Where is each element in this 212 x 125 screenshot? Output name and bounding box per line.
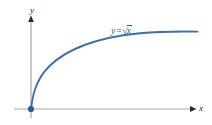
y-axis-label: y	[30, 6, 34, 15]
plot-canvas	[0, 0, 212, 125]
y-axis-arrowhead	[28, 16, 34, 23]
equation-equals: =	[115, 26, 122, 36]
curve-equation-label: y=√x	[111, 27, 132, 37]
x-axis-label: x	[199, 104, 203, 113]
x-axis-arrowhead	[190, 106, 197, 112]
figure-container: y x y=√x	[0, 0, 212, 125]
radicand: x	[127, 25, 132, 36]
sqrt-curve	[31, 31, 198, 109]
origin-point-marker	[28, 106, 34, 112]
